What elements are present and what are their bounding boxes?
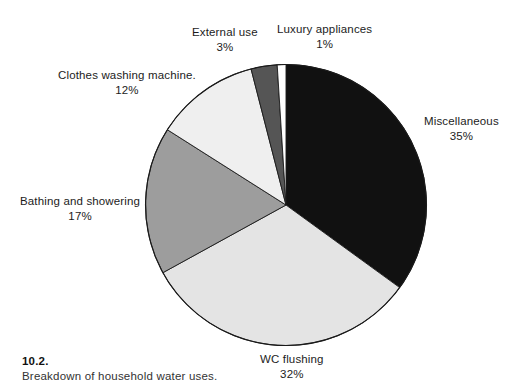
slice-label-name: Bathing and showering [20, 194, 140, 209]
slice-label-value: 3% [192, 40, 258, 55]
figure-caption: 10.2. Breakdown of household water uses. [22, 354, 352, 384]
slice-label-value: 1% [277, 37, 372, 52]
figure-number: 10.2. [22, 354, 352, 369]
slice-label-value: 12% [58, 83, 196, 98]
slice-label-value: 17% [20, 209, 140, 224]
pie-slice-group [145, 65, 426, 346]
slice-label-name: Clothes washing machine. [58, 68, 196, 83]
slice-label-name: Luxury appliances [277, 22, 372, 37]
slice-label-miscellaneous: Miscellaneous 35% [424, 114, 499, 143]
slice-label-value: 35% [424, 129, 499, 144]
slice-label-luxury-appliances: Luxury appliances 1% [277, 22, 372, 51]
slice-label-clothes-washing-machine: Clothes washing machine. 12% [58, 68, 196, 97]
slice-label-name: Miscellaneous [424, 114, 499, 129]
figure-container: Miscellaneous 35% WC flushing 32% Bathin… [0, 0, 520, 392]
slice-label-name: External use [192, 25, 258, 40]
slice-label-external-use: External use 3% [192, 25, 258, 54]
slice-label-bathing-and-showering: Bathing and showering 17% [20, 194, 140, 223]
figure-caption-text: Breakdown of household water uses. [22, 369, 352, 384]
